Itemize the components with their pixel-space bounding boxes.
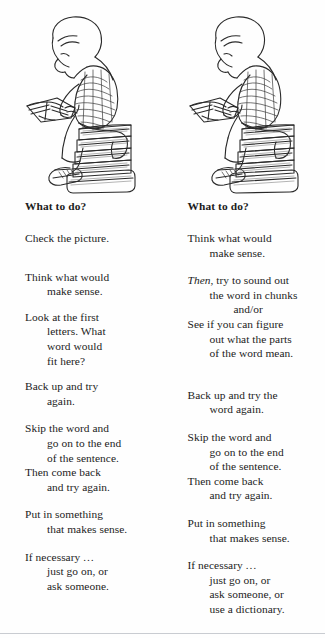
line: that makes sense.	[25, 522, 159, 537]
line: go on to the end	[25, 436, 159, 451]
column-right: What to do? Think what would make sense.…	[163, 0, 325, 638]
stanza-put-in-something: Put in something that makes sense.	[25, 507, 159, 536]
line: letters. What	[25, 324, 159, 339]
line: fit here?	[25, 354, 159, 369]
line: and/or	[188, 302, 322, 317]
line: If necessary …	[25, 550, 159, 565]
then-rest: , try to sound out	[210, 274, 288, 286]
line: Skip the word and	[25, 421, 159, 436]
stanza-if-necessary: If necessary … just go on, or ask someon…	[25, 550, 159, 594]
stanza-then-sound-out: Then, try to sound out the word in chunk…	[188, 273, 322, 361]
line: word again.	[188, 402, 322, 417]
line: and try again.	[188, 488, 322, 503]
heading-right: What to do?	[188, 200, 322, 213]
boy-reading-on-books-icon	[17, 12, 145, 194]
line: make sense.	[188, 246, 322, 261]
line: just go on, or	[25, 564, 159, 579]
stanza-check-picture: Check the picture.	[25, 231, 159, 246]
stanza-if-necessary: If necessary … just go on, or ask someon…	[188, 558, 322, 616]
line: of the sentence.	[25, 451, 159, 466]
line: Then come back	[188, 474, 322, 489]
line: of the sentence.	[188, 459, 322, 474]
worksheet-page: What to do? Check the picture. Think wha…	[0, 0, 325, 638]
stanza-think-make-sense: Think what would make sense.	[25, 270, 159, 299]
line: Think what would	[25, 270, 159, 285]
textblock-left: What to do? Check the picture. Think wha…	[0, 200, 163, 593]
line: Skip the word and	[188, 430, 322, 445]
line: that makes sense.	[188, 531, 322, 546]
stanza-put-in-something: Put in something that makes sense.	[188, 516, 322, 545]
line: Think what would	[188, 231, 322, 246]
textblock-right: What to do? Think what would make sense.…	[163, 200, 325, 616]
stanza-look-first-letters: Look at the first letters. What word wou…	[25, 310, 159, 368]
line: See if you can figure	[188, 317, 322, 332]
boy-reading-on-books-icon	[180, 12, 308, 194]
heading-left: What to do?	[25, 200, 159, 213]
line: Then come back	[25, 465, 159, 480]
stanza-skip-the-word: Skip the word and go on to the end of th…	[188, 430, 322, 503]
line: If necessary …	[188, 558, 322, 573]
stanza-back-up-try-word-again: Back up and try the word again.	[188, 388, 322, 417]
line: Put in something	[188, 516, 322, 531]
line: the word in chunks	[188, 288, 322, 303]
line: go on to the end	[188, 445, 322, 460]
line: make sense.	[25, 284, 159, 299]
line: Check the picture.	[25, 231, 159, 246]
line: Put in something	[25, 507, 159, 522]
line: word would	[25, 339, 159, 354]
illustration-right-wrap	[163, 0, 325, 200]
stanza-back-up-try-again: Back up and try again.	[25, 379, 159, 408]
line: ask someone.	[25, 579, 159, 594]
line: just go on, or	[188, 573, 322, 588]
line: Back up and try	[25, 379, 159, 394]
illustration-left-wrap	[0, 0, 163, 200]
line: Back up and try the	[188, 388, 322, 403]
bottom-rule	[0, 633, 325, 634]
then-emphasis: Then	[188, 274, 211, 286]
stanza-skip-the-word: Skip the word and go on to the end of th…	[25, 421, 159, 494]
line: Look at the first	[25, 310, 159, 325]
stanza-think-make-sense: Think what would make sense.	[188, 231, 322, 260]
line: and try again.	[25, 480, 159, 495]
two-column-layout: What to do? Check the picture. Think wha…	[0, 0, 325, 638]
line: ask someone, or	[188, 587, 322, 602]
line: again.	[25, 394, 159, 409]
line: use a dictionary.	[188, 602, 322, 617]
line: of the word mean.	[188, 346, 322, 361]
line-then: Then, try to sound out	[188, 273, 322, 288]
line: out what the parts	[188, 332, 322, 347]
column-left: What to do? Check the picture. Think wha…	[0, 0, 163, 638]
